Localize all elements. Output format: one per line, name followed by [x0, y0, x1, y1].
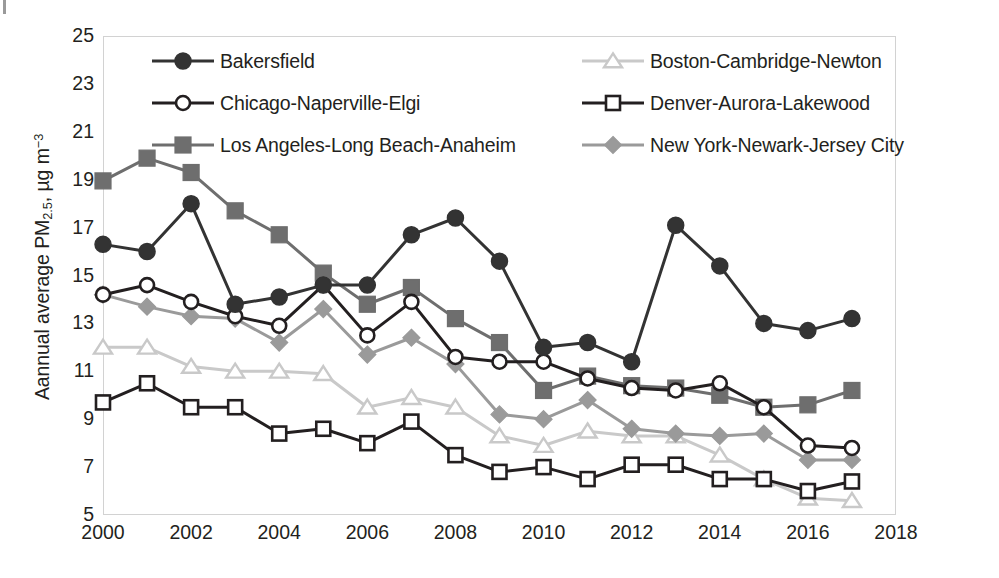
x-axis-tick-2008: 2008 — [415, 523, 495, 543]
series-bakersfield — [95, 196, 860, 370]
series-denver-aurora-lakewood — [96, 376, 859, 498]
data-point — [581, 371, 595, 385]
data-point — [757, 400, 771, 414]
data-point — [537, 460, 551, 474]
data-point — [624, 354, 640, 370]
legend-item-boston-cambridge-newton[interactable]: Boston-Cambridge-Newton — [580, 50, 890, 73]
data-point — [140, 376, 154, 390]
data-point — [227, 203, 243, 219]
data-point — [492, 335, 508, 351]
data-point — [799, 451, 816, 468]
data-point — [359, 277, 375, 293]
legend-swatch-triangle-open-icon — [580, 50, 646, 72]
data-point — [493, 465, 507, 479]
data-point — [536, 382, 552, 398]
data-point — [669, 383, 683, 397]
data-point — [448, 350, 462, 364]
data-point — [271, 227, 287, 243]
data-point — [844, 311, 860, 327]
data-point — [228, 400, 242, 414]
data-point — [537, 355, 551, 369]
series-line — [103, 285, 852, 448]
data-point — [755, 425, 772, 442]
data-point — [581, 472, 595, 486]
series-new-york-newark-jersey-city — [95, 286, 861, 468]
data-point — [668, 217, 684, 233]
legend-swatch-diamond-filled-icon — [580, 134, 646, 156]
data-point — [403, 227, 419, 243]
legend-swatch-circle-open-icon — [150, 92, 216, 114]
data-point — [713, 472, 727, 486]
data-point — [359, 296, 375, 312]
x-axis-tick-2012: 2012 — [592, 523, 672, 543]
legend-label: New York-Newark-Jersey City — [650, 134, 904, 157]
legend-item-new-york-newark-jersey-city[interactable]: New York-Newark-Jersey City — [580, 134, 890, 157]
data-point — [403, 329, 420, 346]
legend-swatch-square-open-icon — [580, 92, 646, 114]
data-point — [757, 472, 771, 486]
x-axis-tick-2000: 2000 — [63, 523, 143, 543]
legend-label: Boston-Cambridge-Newton — [650, 50, 882, 73]
data-point — [492, 253, 508, 269]
data-point — [183, 308, 200, 325]
data-point — [360, 436, 374, 450]
legend-item-bakersfield[interactable]: Bakersfield — [150, 50, 580, 73]
legend-item-los-angeles-long-beach-anaheim[interactable]: Los Angeles-Long Beach-Anaheim — [150, 134, 580, 157]
x-axis-tick-2006: 2006 — [327, 523, 407, 543]
data-point — [96, 288, 110, 302]
data-point — [360, 328, 374, 342]
legend-label: Bakersfield — [220, 50, 315, 73]
data-point — [271, 289, 287, 305]
data-point — [404, 295, 418, 309]
chart-legend: BakersfieldBoston-Cambridge-NewtonChicag… — [150, 40, 890, 166]
data-point — [183, 196, 199, 212]
data-point — [139, 298, 156, 315]
legend-item-chicago-naperville-elgi[interactable]: Chicago-Naperville-Elgi — [150, 92, 580, 115]
data-point — [625, 381, 639, 395]
series-line — [103, 295, 852, 460]
data-point — [535, 411, 552, 428]
data-point — [712, 258, 728, 274]
data-point — [579, 392, 596, 409]
data-point — [625, 458, 639, 472]
x-axis-tick-2004: 2004 — [239, 523, 319, 543]
figure-pm25-trends: Aannual average PM2.5, µg m−3 2523211917… — [0, 0, 999, 578]
data-point — [713, 376, 727, 390]
data-point — [711, 427, 728, 444]
data-point — [447, 311, 463, 327]
data-point — [801, 484, 815, 498]
data-point — [272, 319, 286, 333]
data-point — [404, 415, 418, 429]
data-point — [139, 244, 155, 260]
data-point — [800, 323, 816, 339]
data-point — [493, 355, 507, 369]
data-point — [95, 236, 111, 252]
legend-item-denver-aurora-lakewood[interactable]: Denver-Aurora-Lakewood — [580, 92, 890, 115]
data-point — [315, 277, 331, 293]
data-point — [402, 390, 420, 404]
data-point — [403, 279, 419, 295]
x-axis-tick-2014: 2014 — [680, 523, 760, 543]
data-point — [227, 296, 243, 312]
legend-swatch-circle-filled-icon — [150, 50, 216, 72]
x-axis-tick-2018: 2018 — [856, 523, 936, 543]
data-point — [845, 474, 859, 488]
data-point — [183, 165, 199, 181]
series-chicago-naperville-elgi — [96, 278, 859, 455]
data-point — [536, 339, 552, 355]
data-point — [96, 395, 110, 409]
data-point — [95, 173, 111, 189]
x-axis-tick-2010: 2010 — [504, 523, 584, 543]
legend-label: Denver-Aurora-Lakewood — [650, 92, 870, 115]
series-los-angeles-long-beach-anaheim — [95, 150, 860, 415]
data-point — [272, 427, 286, 441]
data-point — [184, 400, 198, 414]
data-point — [669, 458, 683, 472]
data-point — [844, 382, 860, 398]
data-point — [140, 278, 154, 292]
data-point — [184, 295, 198, 309]
data-point — [845, 441, 859, 455]
series-boston-cambridge-newton — [94, 340, 861, 507]
x-axis-tick-2016: 2016 — [768, 523, 848, 543]
legend-label: Los Angeles-Long Beach-Anaheim — [220, 134, 516, 157]
